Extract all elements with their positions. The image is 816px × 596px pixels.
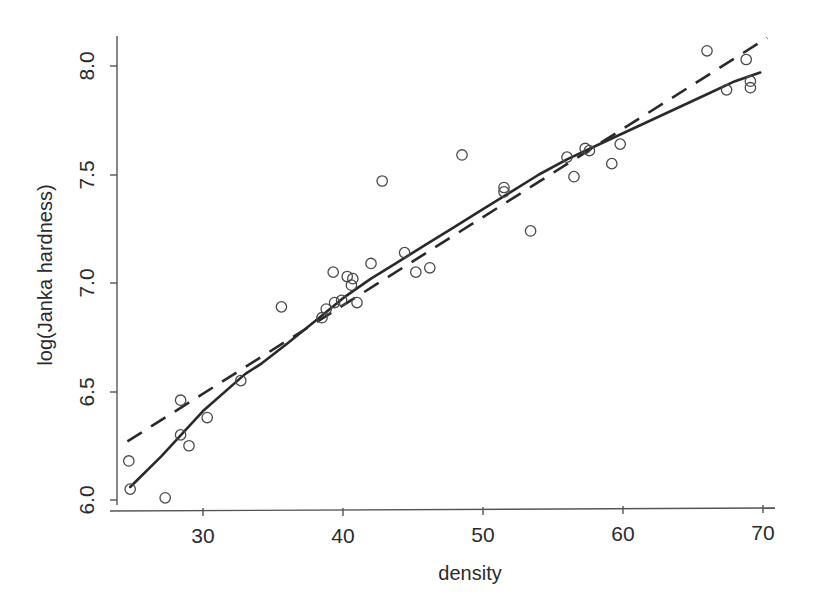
x-axis-line bbox=[110, 508, 775, 511]
data-point bbox=[607, 158, 617, 168]
scatter-plot-svg: 6.0 6.5 7.0 7.5 8.0 30 40 50 60 70 densi… bbox=[0, 0, 816, 596]
chart-container: 6.0 6.5 7.0 7.5 8.0 30 40 50 60 70 densi… bbox=[0, 0, 816, 596]
data-point bbox=[457, 150, 467, 160]
data-point bbox=[202, 412, 212, 422]
y-tick-label-6.5: 6.5 bbox=[75, 377, 98, 406]
y-tick-label-7.0: 7.0 bbox=[75, 268, 98, 297]
data-point bbox=[160, 493, 170, 503]
data-point bbox=[425, 263, 435, 273]
data-point bbox=[399, 247, 409, 257]
fit-line-linear-fit bbox=[127, 38, 767, 442]
data-point bbox=[745, 83, 755, 93]
y-axis-tick-labels: 6.0 6.5 7.0 7.5 8.0 bbox=[75, 51, 98, 514]
y-tick-label-7.5: 7.5 bbox=[75, 160, 98, 189]
y-tick-label-8.0: 8.0 bbox=[75, 51, 98, 80]
x-tick-label-40: 40 bbox=[331, 524, 354, 547]
data-point bbox=[352, 297, 362, 307]
data-point bbox=[377, 176, 387, 186]
y-tick-label-6.0: 6.0 bbox=[75, 485, 98, 514]
y-axis-title: log(Janka hardness) bbox=[34, 184, 56, 365]
x-axis-tick-labels: 30 40 50 60 70 bbox=[191, 521, 774, 547]
x-axis-title: density bbox=[438, 562, 501, 584]
data-point bbox=[411, 267, 421, 277]
data-point bbox=[702, 46, 712, 56]
x-tick-label-50: 50 bbox=[471, 523, 494, 546]
data-point bbox=[741, 54, 751, 64]
data-points-layer bbox=[124, 46, 756, 503]
fit-lines-layer bbox=[127, 38, 767, 487]
data-point bbox=[615, 139, 625, 149]
x-tick-label-60: 60 bbox=[611, 522, 634, 545]
x-tick-label-30: 30 bbox=[191, 524, 214, 547]
data-point bbox=[525, 226, 535, 236]
fit-line-smooth-fit bbox=[130, 73, 760, 487]
data-point bbox=[569, 171, 579, 181]
data-point bbox=[124, 456, 134, 466]
data-point bbox=[184, 441, 194, 451]
y-axis-ticks bbox=[110, 66, 117, 500]
data-point bbox=[276, 302, 286, 312]
data-point bbox=[328, 267, 338, 277]
data-point bbox=[366, 258, 376, 268]
x-tick-label-70: 70 bbox=[751, 521, 774, 544]
data-point bbox=[175, 395, 185, 405]
